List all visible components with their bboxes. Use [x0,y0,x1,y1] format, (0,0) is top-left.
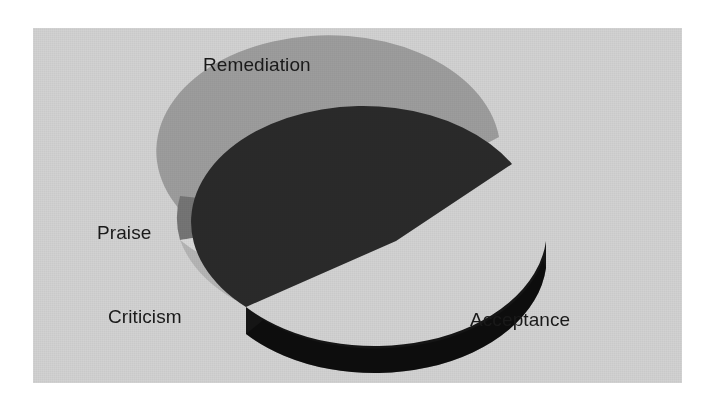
slice-label-acceptance: Acceptance [470,310,570,329]
pie-chart-figure: Remediation Praise Criticism Acceptance [0,0,718,410]
slice-label-criticism: Criticism [108,307,182,326]
slice-label-praise: Praise [97,223,151,242]
chart-plot-area: Remediation Praise Criticism Acceptance [33,28,682,383]
slice-label-remediation: Remediation [203,55,311,74]
pie-chart-graphic [33,28,682,383]
